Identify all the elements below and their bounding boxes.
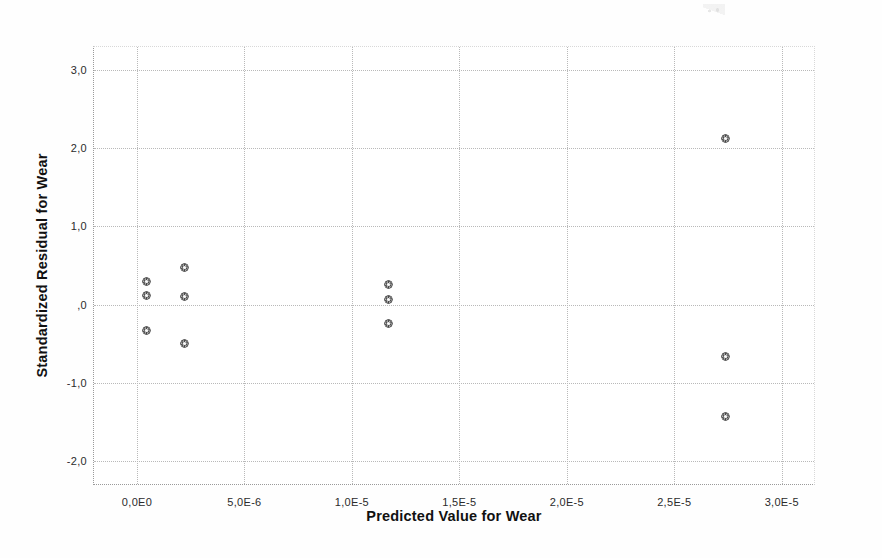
data-point (384, 280, 393, 289)
x-axis-tick-label: 2,0E-5 (550, 496, 584, 508)
gridline-horizontal (94, 383, 814, 384)
gridline-horizontal (94, 305, 814, 306)
gridline-horizontal (94, 70, 814, 71)
x-axis-tick-label: 5,0E-6 (227, 496, 261, 508)
gridline-vertical (352, 47, 353, 484)
data-point (384, 319, 393, 328)
x-axis-tick-label: 1,5E-5 (442, 496, 476, 508)
gridline-vertical (137, 47, 138, 484)
gridline-vertical (459, 47, 460, 484)
data-point (721, 352, 730, 361)
scatter-plot-figure: 3,02,01,0,0-1,0-2,00,0E05,0E-61,0E-51,5E… (0, 0, 882, 558)
data-point (180, 263, 189, 272)
x-axis-tick-label: 3,0E-5 (765, 496, 799, 508)
gridline-vertical (782, 47, 783, 484)
y-axis-tick-label: 3,0 (71, 64, 87, 76)
data-point (142, 326, 151, 335)
x-axis-title: Predicted Value for Wear (93, 508, 815, 524)
data-point (721, 412, 730, 421)
gridline-vertical (674, 47, 675, 484)
data-point (721, 134, 730, 143)
y-axis-tick-label: -2,0 (67, 455, 87, 467)
data-point (180, 339, 189, 348)
plot-frame: 3,02,01,0,0-1,0-2,00,0E05,0E-61,0E-51,5E… (93, 46, 815, 485)
y-axis-tick-label: ,0 (77, 299, 87, 311)
x-axis-tick-label: 1,0E-5 (335, 496, 369, 508)
scan-artifact-mark (703, 4, 725, 24)
x-axis-tick-label: 2,5E-5 (657, 496, 691, 508)
y-axis-tick-label: 1,0 (71, 220, 87, 232)
data-point (142, 277, 151, 286)
y-axis-title: Standardized Residual for Wear (34, 46, 50, 485)
gridline-horizontal (94, 226, 814, 227)
gridline-vertical (567, 47, 568, 484)
gridline-horizontal (94, 461, 814, 462)
x-axis-tick-label: 0,0E0 (122, 496, 152, 508)
data-point (180, 292, 189, 301)
data-point (142, 291, 151, 300)
plot-area: 3,02,01,0,0-1,0-2,00,0E05,0E-61,0E-51,5E… (94, 47, 814, 484)
y-axis-tick-label: -1,0 (67, 377, 87, 389)
y-axis-tick-label: 2,0 (71, 142, 87, 154)
data-point (384, 295, 393, 304)
gridline-horizontal (94, 148, 814, 149)
gridline-vertical (244, 47, 245, 484)
